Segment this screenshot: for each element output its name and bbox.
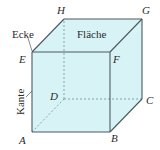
vertex-label-h: H: [56, 4, 66, 16]
label-flaeche: Fläche: [77, 28, 106, 40]
cube-diagram: A B C D E F G H Ecke Fläche Kante: [0, 0, 160, 150]
vertex-label-g: G: [142, 4, 150, 16]
vertex-label-c: C: [146, 94, 154, 106]
vertex-label-f: F: [112, 53, 120, 65]
vertex-label-b: B: [111, 132, 118, 144]
label-ecke: Ecke: [12, 28, 34, 40]
label-kante: Kante: [14, 89, 26, 115]
vertex-label-a: A: [18, 134, 26, 146]
cube-svg: A B C D E F G H Ecke Fläche Kante: [0, 0, 160, 150]
vertex-label-d: D: [49, 90, 58, 102]
leader-kante: [26, 91, 32, 97]
vertex-label-e: E: [18, 53, 26, 65]
